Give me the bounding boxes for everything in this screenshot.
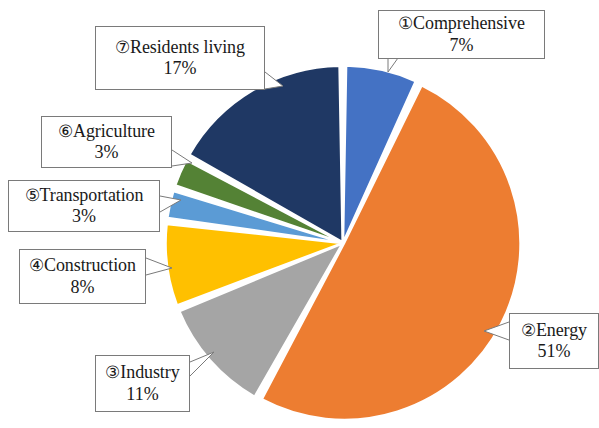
callout-construction-value: 8%: [71, 277, 95, 298]
callout-agriculture-value: 3%: [95, 142, 119, 163]
callout-residents-living-label: ⑦Residents living: [115, 37, 245, 58]
callout-agriculture[interactable]: ⑥Agriculture 3%: [41, 116, 172, 168]
callout-construction-label: ④Construction: [29, 255, 136, 276]
leader-industry: [190, 352, 214, 376]
pie-slice-group: [166, 66, 520, 420]
callout-industry-label: ③Industry: [105, 362, 179, 383]
callout-comprehensive-label: ①Comprehensive: [398, 13, 525, 34]
callout-residents-living[interactable]: ⑦Residents living 17%: [95, 26, 265, 90]
callout-transportation-label: ⑤Transportation: [25, 185, 144, 206]
callout-comprehensive-value: 7%: [450, 35, 474, 56]
callout-transportation-value: 3%: [72, 206, 96, 227]
callout-residents-living-value: 17%: [164, 58, 197, 79]
callout-energy-label: ②Energy: [521, 320, 587, 341]
callout-industry-value: 11%: [126, 384, 158, 405]
callout-comprehensive[interactable]: ①Comprehensive 7%: [378, 10, 545, 59]
callout-construction[interactable]: ④Construction 8%: [19, 249, 146, 304]
callout-energy-value: 51%: [538, 341, 571, 362]
leader-comprehensive: [388, 58, 398, 72]
callout-energy[interactable]: ②Energy 51%: [509, 313, 599, 369]
pie-chart-figure: ①Comprehensive 7% ⑦Residents living 17% …: [0, 0, 599, 428]
callout-agriculture-label: ⑥Agriculture: [58, 121, 155, 142]
leader-agriculture: [172, 150, 192, 166]
callout-industry[interactable]: ③Industry 11%: [95, 355, 190, 412]
callout-transportation[interactable]: ⑤Transportation 3%: [8, 180, 160, 232]
